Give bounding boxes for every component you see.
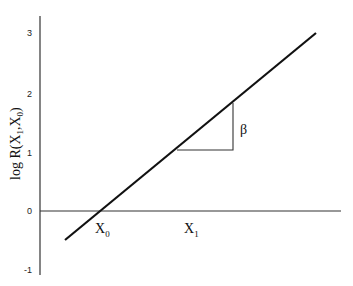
svg-text:log R(X1,X0): log R(X1,X0) (8, 107, 25, 180)
regression-diagram: 3 2 1 0 -1 log R(X1,X0) β X0 X1 (0, 0, 353, 286)
slope-triangle (177, 103, 233, 150)
x1-label: X1 (184, 221, 199, 239)
beta-label: β (240, 122, 247, 137)
y-tick-1: 1 (27, 148, 32, 158)
y-tick-2: 2 (27, 89, 32, 99)
y-tick-3: 3 (27, 28, 32, 38)
y-tick-0: 0 (27, 206, 32, 216)
x0-label: X0 (95, 221, 110, 239)
regression-line (65, 33, 316, 240)
y-tick-neg1: -1 (24, 265, 32, 275)
y-axis-label: log R(X1,X0) (8, 107, 25, 180)
